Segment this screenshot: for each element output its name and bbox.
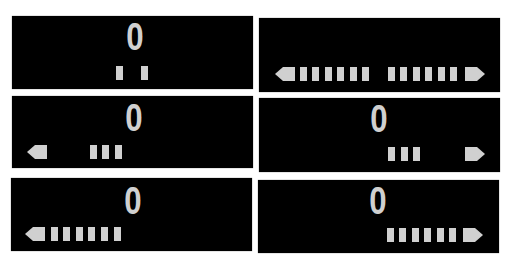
arrow-right-icon: [465, 67, 485, 81]
arrow-left-icon: [275, 67, 295, 81]
arrow-left-icon: [25, 227, 45, 241]
arrow-left-icon: [27, 145, 47, 159]
panel-middle-left: 0: [12, 96, 253, 168]
panel-top-right: [259, 18, 500, 92]
right-bar-6: [450, 67, 457, 81]
left-bar-6: [51, 227, 58, 241]
right-bar-3: [413, 147, 420, 161]
left-bar-1: [115, 145, 122, 159]
left-bar-3: [90, 145, 97, 159]
right-bar-5: [437, 228, 444, 242]
arrow-right-icon: [463, 228, 483, 242]
panel-bottom-right: 0: [258, 180, 499, 253]
digit-display: 0: [369, 104, 389, 134]
right-bar-1: [387, 228, 394, 242]
digit-display: 0: [124, 103, 144, 133]
left-bar-6: [300, 67, 307, 81]
panel-middle-right: 0: [259, 98, 500, 172]
arrow-right-icon: [465, 147, 485, 161]
right-bar-3: [412, 228, 419, 242]
right-bar-2: [400, 67, 407, 81]
left-bar-3: [88, 227, 95, 241]
left-bar-3: [337, 67, 344, 81]
left-bar-2: [102, 145, 109, 159]
left-bar-2: [101, 227, 108, 241]
right-bar-2: [399, 228, 406, 242]
right-bar-1: [388, 67, 395, 81]
right-bar-6: [449, 228, 456, 242]
right-bar-4: [425, 67, 432, 81]
digit-display: [368, 24, 388, 54]
digit-display: 0: [123, 186, 143, 216]
center-mark-right: [141, 66, 148, 80]
center-mark-left: [116, 66, 123, 80]
right-bar-4: [424, 228, 431, 242]
left-bar-2: [350, 67, 357, 81]
panel-top-left: 0: [12, 16, 253, 89]
left-bar-4: [76, 227, 83, 241]
right-bar-2: [401, 147, 408, 161]
left-bar-5: [312, 67, 319, 81]
left-bar-5: [63, 227, 70, 241]
right-bar-1: [388, 147, 395, 161]
left-bar-4: [325, 67, 332, 81]
right-bar-5: [438, 67, 445, 81]
left-bar-1: [362, 67, 369, 81]
right-bar-3: [413, 67, 420, 81]
left-bar-1: [114, 227, 121, 241]
digit-display: 0: [125, 22, 145, 52]
digit-display: 0: [368, 186, 388, 216]
panel-bottom-left: 0: [11, 178, 252, 251]
